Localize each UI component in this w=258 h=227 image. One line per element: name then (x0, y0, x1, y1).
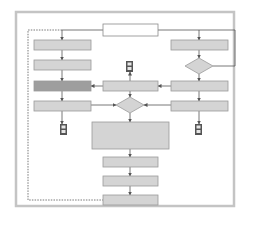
process-node-r1 (171, 40, 228, 50)
process-node-l3 (34, 81, 91, 91)
terminal-connector-icon (195, 124, 202, 135)
flowchart-diagram (0, 0, 258, 227)
process-node-b1 (103, 157, 158, 167)
start-node (103, 24, 158, 36)
process-node-r3 (171, 101, 228, 111)
terminal-connector-icon (60, 124, 67, 135)
process-node-b2 (103, 176, 158, 186)
process-node-l2 (34, 60, 91, 70)
flowchart-canvas (0, 0, 258, 227)
process-node-b3 (103, 195, 158, 205)
process-node-l4 (34, 101, 91, 111)
process-node-c1 (103, 81, 158, 91)
process-node-l1 (34, 40, 91, 50)
terminal-connector-icon (126, 61, 133, 72)
process-node-big (92, 122, 169, 149)
process-node-r2 (171, 81, 228, 91)
